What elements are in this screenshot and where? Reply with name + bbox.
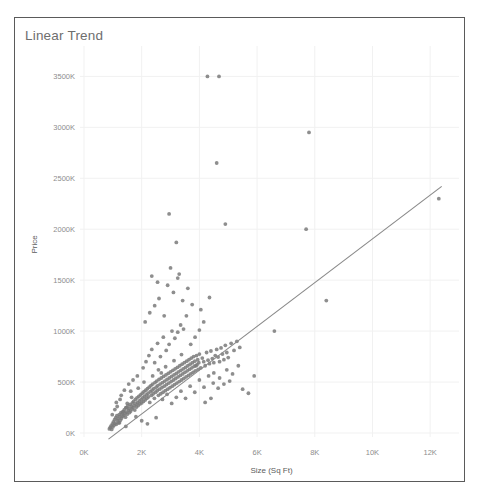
data-point[interactable] — [223, 343, 227, 347]
data-point[interactable] — [212, 361, 216, 365]
data-point[interactable] — [193, 335, 197, 339]
data-point[interactable] — [144, 360, 148, 364]
data-point[interactable] — [186, 286, 190, 290]
data-point[interactable] — [167, 342, 171, 346]
data-point[interactable] — [147, 354, 151, 358]
data-point[interactable] — [153, 304, 157, 308]
data-point[interactable] — [212, 371, 216, 375]
data-point[interactable] — [228, 379, 232, 383]
data-point[interactable] — [172, 359, 176, 363]
data-point[interactable] — [164, 349, 168, 353]
data-point[interactable] — [437, 197, 441, 201]
data-point[interactable] — [206, 74, 210, 78]
data-point[interactable] — [217, 74, 221, 78]
data-point[interactable] — [162, 314, 166, 318]
data-point[interactable] — [110, 413, 114, 417]
data-point[interactable] — [181, 299, 185, 303]
data-point[interactable] — [159, 371, 163, 375]
data-point[interactable] — [146, 422, 150, 426]
data-point[interactable] — [151, 374, 155, 378]
data-point[interactable] — [176, 330, 180, 334]
data-point[interactable] — [121, 410, 125, 414]
data-point[interactable] — [143, 320, 147, 324]
data-point[interactable] — [136, 386, 140, 390]
data-point[interactable] — [205, 351, 209, 355]
data-point[interactable] — [197, 361, 201, 365]
data-point[interactable] — [141, 366, 145, 370]
data-point[interactable] — [185, 314, 189, 318]
data-point[interactable] — [216, 386, 220, 390]
data-point[interactable] — [118, 421, 122, 425]
data-point[interactable] — [173, 336, 177, 340]
data-point[interactable] — [182, 327, 186, 331]
data-point[interactable] — [129, 389, 133, 393]
data-point[interactable] — [238, 346, 242, 350]
data-point[interactable] — [166, 283, 170, 287]
data-point[interactable] — [307, 131, 311, 135]
data-point[interactable] — [197, 378, 201, 382]
data-point[interactable] — [152, 396, 156, 400]
data-point[interactable] — [197, 352, 201, 356]
data-point[interactable] — [209, 349, 213, 353]
data-point[interactable] — [202, 385, 206, 389]
data-point[interactable] — [169, 266, 173, 270]
data-point[interactable] — [208, 296, 212, 300]
data-point[interactable] — [206, 358, 210, 362]
data-point[interactable] — [113, 408, 117, 412]
data-point[interactable] — [148, 401, 152, 405]
data-point[interactable] — [156, 341, 160, 345]
data-point[interactable] — [215, 161, 219, 165]
data-point[interactable] — [122, 388, 126, 392]
data-point[interactable] — [167, 212, 171, 216]
data-point[interactable] — [148, 311, 152, 315]
data-point[interactable] — [180, 353, 184, 357]
data-point[interactable] — [304, 227, 308, 231]
data-point[interactable] — [131, 378, 135, 382]
data-point[interactable] — [161, 335, 165, 339]
data-point[interactable] — [119, 393, 123, 397]
data-point[interactable] — [184, 396, 188, 400]
data-point[interactable] — [218, 360, 222, 364]
data-point[interactable] — [200, 356, 204, 360]
data-point[interactable] — [241, 387, 245, 391]
data-point[interactable] — [140, 419, 144, 423]
data-point[interactable] — [154, 416, 158, 420]
data-point[interactable] — [115, 405, 119, 409]
data-point[interactable] — [118, 397, 122, 401]
data-point[interactable] — [179, 323, 183, 327]
data-point[interactable] — [159, 355, 163, 359]
data-point[interactable] — [209, 396, 213, 400]
data-point[interactable] — [207, 374, 211, 378]
data-point[interactable] — [218, 376, 222, 380]
data-point[interactable] — [225, 368, 229, 372]
data-point[interactable] — [150, 348, 154, 352]
data-point[interactable] — [225, 351, 229, 355]
data-point[interactable] — [252, 374, 256, 378]
data-point[interactable] — [174, 241, 178, 245]
data-point[interactable] — [190, 303, 194, 307]
data-point[interactable] — [197, 328, 201, 332]
data-point[interactable] — [199, 308, 203, 312]
data-point[interactable] — [179, 389, 183, 393]
data-point[interactable] — [174, 395, 178, 399]
data-point[interactable] — [170, 329, 174, 333]
data-point[interactable] — [231, 372, 235, 376]
data-point[interactable] — [215, 348, 219, 352]
data-point[interactable] — [125, 402, 129, 406]
data-point[interactable] — [189, 342, 193, 346]
scatter-plot[interactable]: 0K500K1000K1500K2000K2500K3000K3500K0K2K… — [15, 18, 466, 483]
data-point[interactable] — [142, 380, 146, 384]
data-point[interactable] — [157, 297, 161, 301]
data-point[interactable] — [193, 390, 197, 394]
data-point[interactable] — [203, 401, 207, 405]
data-point[interactable] — [135, 374, 139, 378]
data-point[interactable] — [170, 402, 174, 406]
trend-line[interactable] — [109, 186, 442, 439]
data-point[interactable] — [153, 361, 157, 365]
data-point[interactable] — [124, 406, 128, 410]
data-point[interactable] — [222, 358, 226, 362]
data-point[interactable] — [222, 382, 226, 386]
data-point[interactable] — [164, 365, 168, 369]
data-point[interactable] — [236, 364, 240, 368]
data-point[interactable] — [226, 356, 230, 360]
